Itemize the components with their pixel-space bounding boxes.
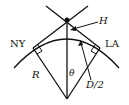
label-la: LA (105, 39, 119, 49)
earth-geometry-diagram (0, 0, 129, 105)
label-angle: θ (69, 69, 74, 78)
label-height: H (99, 16, 108, 26)
tangent-line-la (46, 6, 100, 48)
height-arrow (73, 22, 98, 29)
label-half-distance: D/2 (86, 80, 104, 90)
label-ny: NY (10, 39, 25, 49)
right-angle-marker-la (91, 45, 96, 54)
apex-point-icon (65, 18, 70, 23)
label-radius: R (32, 70, 40, 80)
